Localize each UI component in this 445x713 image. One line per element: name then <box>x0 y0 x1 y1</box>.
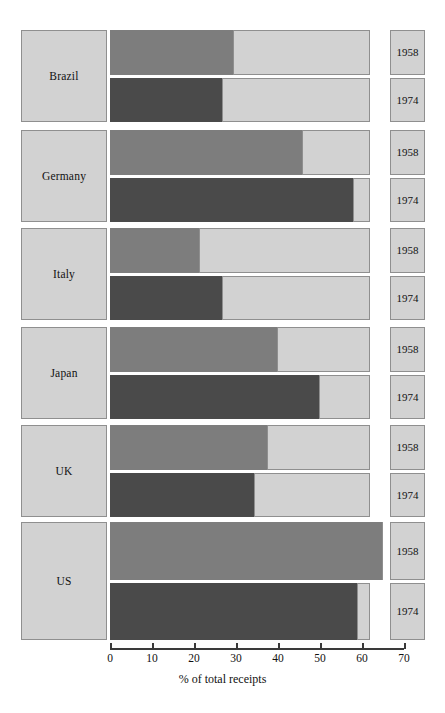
bar-segment-1974 <box>110 375 320 420</box>
x-axis-tick-label: 60 <box>356 652 368 664</box>
country-label: Japan <box>50 367 77 379</box>
year-label: 1974 <box>397 194 419 206</box>
year-label: 1974 <box>397 489 419 501</box>
country-group: US19581974 <box>21 522 425 640</box>
country-label-box: US <box>21 522 107 640</box>
x-axis-tick <box>278 643 280 649</box>
year-label-box: 1974 <box>390 375 425 420</box>
country-group: UK19581974 <box>21 425 425 517</box>
bar-row <box>110 473 370 518</box>
country-group: Japan19581974 <box>21 327 425 419</box>
country-label: Germany <box>42 170 86 182</box>
year-label-box: 1958 <box>390 327 425 372</box>
country-label-box: Brazil <box>21 30 107 122</box>
stacked-bar-chart: Brazil19581974Germany19581974Italy195819… <box>0 0 445 713</box>
country-label-box: UK <box>21 425 107 517</box>
x-axis-tick <box>236 643 238 649</box>
x-axis-tick-label: 40 <box>272 652 284 664</box>
country-group: Brazil19581974 <box>21 30 425 122</box>
x-axis-title: % of total receipts <box>0 672 445 687</box>
year-label: 1974 <box>397 94 419 106</box>
bar-row <box>110 327 370 372</box>
year-label-box: 1974 <box>390 583 425 641</box>
country-label-box: Japan <box>21 327 107 419</box>
year-label-box: 1958 <box>390 228 425 273</box>
x-axis-tick-label: 10 <box>146 652 158 664</box>
country-label-box: Germany <box>21 130 107 222</box>
x-axis-tick-label: 30 <box>230 652 242 664</box>
year-label-box: 1974 <box>390 78 425 123</box>
year-label: 1974 <box>397 292 419 304</box>
year-label: 1958 <box>397 244 419 256</box>
bar-row <box>110 78 370 123</box>
country-label: Italy <box>53 268 75 280</box>
bar-segment-1958 <box>110 327 278 372</box>
x-axis-tick-label: 20 <box>188 652 200 664</box>
x-axis-tick <box>362 643 364 649</box>
bar-row <box>110 522 370 580</box>
bar-segment-1958 <box>110 425 268 470</box>
bar-row <box>110 30 370 75</box>
x-axis-line <box>110 648 404 650</box>
bar-row <box>110 583 370 641</box>
bar-segment-1974 <box>110 276 223 321</box>
year-label-box: 1958 <box>390 130 425 175</box>
country-label: UK <box>55 465 72 477</box>
year-label: 1974 <box>397 391 419 403</box>
x-axis-tick-label: 50 <box>314 652 326 664</box>
bar-segment-1974 <box>110 583 358 641</box>
bar-row <box>110 425 370 470</box>
bar-row <box>110 130 370 175</box>
year-label: 1958 <box>397 545 419 557</box>
bar-segment-1974 <box>110 78 223 123</box>
year-label: 1958 <box>397 146 419 158</box>
year-label-box: 1974 <box>390 178 425 223</box>
year-label-box: 1974 <box>390 473 425 518</box>
bar-segment-1958 <box>110 228 200 273</box>
year-label-box: 1958 <box>390 522 425 580</box>
x-axis-tick <box>194 643 196 649</box>
year-label-box: 1958 <box>390 425 425 470</box>
country-group: Italy19581974 <box>21 228 425 320</box>
x-axis-tick <box>404 643 406 649</box>
year-label-box: 1958 <box>390 30 425 75</box>
bar-segment-1974 <box>110 473 255 518</box>
year-label-box: 1974 <box>390 276 425 321</box>
x-axis-tick <box>320 643 322 649</box>
bar-segment-1958 <box>110 522 383 580</box>
country-group: Germany19581974 <box>21 130 425 222</box>
bar-row <box>110 375 370 420</box>
country-label: Brazil <box>49 70 78 82</box>
x-axis-tick-label: 70 <box>398 652 410 664</box>
country-label-box: Italy <box>21 228 107 320</box>
bar-row <box>110 178 370 223</box>
chart-page: Brazil19581974Germany19581974Italy195819… <box>0 0 445 713</box>
year-label: 1958 <box>397 441 419 453</box>
bar-row <box>110 276 370 321</box>
bar-segment-1958 <box>110 30 234 75</box>
x-axis-tick <box>152 643 154 649</box>
bar-segment-1974 <box>110 178 354 223</box>
x-axis-tick-label: 0 <box>107 652 113 664</box>
bar-row <box>110 228 370 273</box>
country-label: US <box>56 575 71 587</box>
bar-segment-1958 <box>110 130 303 175</box>
year-label: 1958 <box>397 343 419 355</box>
x-axis-tick <box>110 643 112 649</box>
year-label: 1974 <box>397 605 419 617</box>
year-label: 1958 <box>397 46 419 58</box>
